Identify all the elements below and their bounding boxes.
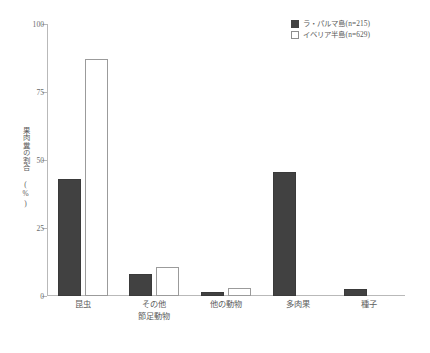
bar-group (262, 24, 334, 296)
plot-area: 0255075100 (47, 24, 405, 296)
x-axis-label-line: 多肉果 (286, 300, 310, 309)
y-axis-title: 果肉糞の割合 (%) (16, 126, 29, 208)
bar (344, 289, 367, 296)
bars-layer (47, 24, 405, 296)
bar (85, 59, 108, 296)
bar (129, 274, 152, 296)
x-axis-label: その他節足動物 (138, 299, 170, 322)
y-tick-label: 0 (40, 292, 44, 301)
bar-group (190, 24, 262, 296)
bar (201, 292, 224, 296)
bar (156, 267, 179, 296)
y-tick-label: 75 (36, 88, 44, 97)
bar-group (47, 24, 119, 296)
x-axis-label: 多肉果 (286, 299, 310, 311)
x-axis-label: 他の動物 (210, 299, 242, 311)
x-axis-label-line: その他 (142, 300, 166, 309)
x-axis-label: 昆虫 (75, 299, 91, 311)
bar-chart: ラ・パルマ島(n=215) イベリア半島(n=629) 果肉糞の割合 (%) 0… (0, 0, 430, 353)
y-tick-label: 25 (36, 224, 44, 233)
bar (58, 179, 81, 296)
bar-group (119, 24, 191, 296)
x-axis-label-line: 節足動物 (138, 311, 170, 323)
x-axis-label-line: 種子 (361, 300, 377, 309)
x-axis-label-line: 他の動物 (210, 300, 242, 309)
y-tick-label: 100 (33, 20, 44, 29)
x-axis-labels: 昆虫その他節足動物他の動物多肉果種子 (47, 299, 405, 339)
bar (273, 172, 296, 296)
bar (228, 288, 251, 296)
x-axis-label: 種子 (361, 299, 377, 311)
bar-group (333, 24, 405, 296)
x-axis-label-line: 昆虫 (75, 300, 91, 309)
y-tick-label: 50 (36, 156, 44, 165)
